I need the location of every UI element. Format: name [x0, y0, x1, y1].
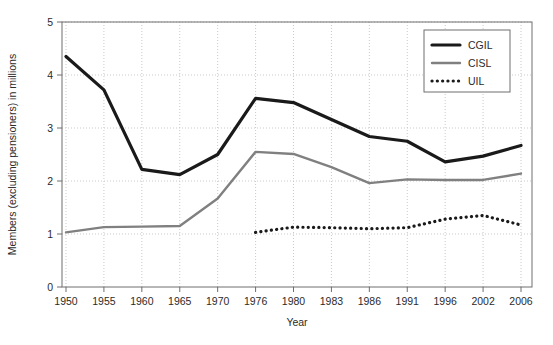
x-axis-title: Year [286, 316, 308, 328]
y-tick-label: 0 [47, 281, 53, 293]
x-tick-label: 1950 [54, 295, 78, 307]
legend-label-uil[interactable]: UIL [468, 75, 485, 87]
x-tick-label: 1980 [282, 295, 306, 307]
chart-canvas: 0123451950195519601965197019761980198319… [0, 0, 553, 345]
y-tick-label: 1 [47, 228, 53, 240]
x-tick-label: 1983 [320, 295, 344, 307]
x-tick-label: 1960 [130, 295, 154, 307]
y-axis-title: Members (excluding pensioners) in millio… [6, 54, 18, 255]
legend-box [424, 30, 510, 92]
y-tick-label: 2 [47, 175, 53, 187]
chart-legend[interactable]: CGILCISLUIL [424, 30, 510, 92]
x-tick-label: 1970 [206, 295, 230, 307]
x-tick-label: 1996 [433, 295, 457, 307]
x-tick-label: 1955 [92, 295, 116, 307]
x-tick-label: 1965 [168, 295, 192, 307]
x-tick-label: 1986 [358, 295, 382, 307]
x-tick-label: 1976 [244, 295, 268, 307]
legend-label-cgil[interactable]: CGIL [468, 39, 493, 51]
y-tick-label: 5 [47, 16, 53, 28]
line-chart: 0123451950195519601965197019761980198319… [0, 0, 553, 345]
y-tick-label: 3 [47, 122, 53, 134]
x-tick-label: 2006 [509, 295, 533, 307]
x-tick-label: 2002 [471, 295, 495, 307]
x-tick-label: 1991 [396, 295, 420, 307]
legend-label-cisl[interactable]: CISL [468, 57, 492, 69]
y-tick-label: 4 [47, 69, 53, 81]
